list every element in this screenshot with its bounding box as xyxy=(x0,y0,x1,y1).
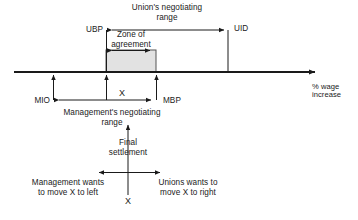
mio-label: MIO xyxy=(34,96,50,106)
mbp-label: MBP xyxy=(163,96,181,106)
axis-caption: % wage increase xyxy=(312,83,341,100)
negotiation-diagram: Union's negotiating range UBP UID Zone o… xyxy=(0,0,358,220)
zone-of-agreement-label: Zone of agreement xyxy=(101,30,161,49)
union-range-label-line2: range xyxy=(156,13,177,22)
union-direction-line2: move X to right xyxy=(160,188,216,197)
zone-label-line2: agreement xyxy=(111,40,151,49)
union-direction-line1: Unions wants to xyxy=(158,178,217,187)
management-direction-line2: to move X to left xyxy=(38,188,98,197)
union-range-label: Union's negotiating range xyxy=(107,3,227,22)
final-settlement-label-line1: Final xyxy=(119,138,137,147)
uid-label: UID xyxy=(234,24,248,34)
settlement-x-lower-label: X xyxy=(125,197,131,207)
axis-caption-line2: increase xyxy=(312,90,341,99)
management-direction-line1: Management wants xyxy=(32,178,104,187)
union-range-label-line1: Union's negotiating xyxy=(132,3,202,12)
settlement-x-upper-label: X xyxy=(119,89,125,99)
zone-of-agreement-box xyxy=(106,50,156,72)
zone-label-line1: Zone of xyxy=(117,30,145,39)
final-settlement-label: Final settlement xyxy=(88,138,168,157)
final-settlement-label-line2: settlement xyxy=(109,148,147,157)
union-direction-label: Unions wants to move X to right xyxy=(133,178,243,197)
management-range-label: Management's negotiating range xyxy=(42,108,182,127)
management-range-label-line2: range xyxy=(101,118,122,127)
management-direction-label: Management wants to move X to left xyxy=(13,178,123,197)
management-range-label-line1: Management's negotiating xyxy=(64,108,161,117)
